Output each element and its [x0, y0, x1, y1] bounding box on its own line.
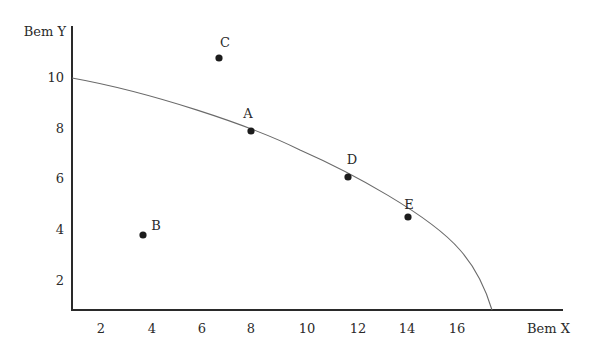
point-marker — [215, 54, 222, 61]
y-axis-label: Bem Y — [24, 24, 67, 39]
x-tick-label: 6 — [198, 321, 206, 336]
point-label: A — [242, 106, 253, 121]
x-tick-label: 8 — [247, 321, 255, 336]
point-label: C — [220, 35, 230, 50]
y-tick-label: 10 — [47, 70, 64, 85]
point-label: D — [347, 152, 357, 167]
point-c: C — [215, 35, 230, 62]
point-label: E — [404, 197, 414, 212]
ppf-curve — [72, 78, 492, 310]
ppf-chart: Bem Y Bem X 10 8 6 4 2 2 4 6 8 10 12 14 … — [0, 0, 591, 352]
x-tick-label: 16 — [449, 321, 466, 336]
y-tick-label: 8 — [56, 121, 64, 136]
point-a: A — [242, 106, 254, 135]
x-tick-label: 4 — [148, 321, 156, 336]
point-marker — [344, 173, 351, 180]
point-marker — [139, 231, 146, 238]
x-tick-label: 10 — [299, 321, 316, 336]
point-b: B — [139, 218, 160, 239]
point-label: B — [151, 218, 161, 233]
point-e: E — [404, 197, 414, 221]
point-marker — [247, 127, 254, 134]
point-marker — [404, 213, 411, 220]
y-tick-label: 4 — [56, 222, 64, 237]
x-tick-label: 12 — [350, 321, 367, 336]
x-tick-label: 14 — [399, 321, 416, 336]
y-tick-label: 2 — [56, 273, 64, 288]
x-tick-label: 2 — [97, 321, 105, 336]
x-axis-label: Bem X — [527, 321, 571, 336]
y-tick-label: 6 — [56, 171, 64, 186]
